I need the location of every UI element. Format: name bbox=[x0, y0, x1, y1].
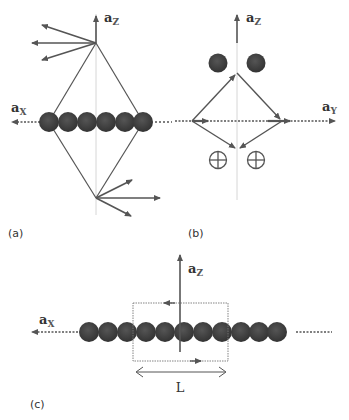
atom bbox=[249, 322, 269, 342]
atom bbox=[193, 322, 213, 342]
z-axis-label: aZ bbox=[104, 10, 119, 27]
y-axis-label: aY bbox=[322, 99, 337, 116]
diagram-canvas: aZ aX (a) aZ aY bbox=[0, 0, 349, 420]
z-axis-label: aZ bbox=[246, 10, 261, 27]
atom bbox=[267, 322, 287, 342]
scatter-arrow bbox=[42, 25, 96, 43]
panel-c: aX aZ L (c) bbox=[30, 255, 332, 411]
x-axis-label: aX bbox=[11, 100, 26, 117]
atom bbox=[136, 322, 156, 342]
ray-line bbox=[50, 124, 96, 198]
atom bbox=[77, 112, 97, 132]
ray-arrow bbox=[240, 121, 282, 148]
length-label: L bbox=[176, 380, 185, 395]
atom bbox=[155, 322, 175, 342]
panel-b: aZ aY (b) bbox=[175, 10, 337, 240]
z-axis-label: aZ bbox=[188, 261, 203, 278]
atom bbox=[96, 112, 116, 132]
ray-arrow bbox=[192, 75, 235, 121]
atom bbox=[39, 112, 59, 132]
x-axis-label: aX bbox=[39, 312, 54, 329]
panel-label-c: (c) bbox=[30, 398, 45, 411]
cross-into-page bbox=[248, 152, 265, 169]
panel-label-a: (a) bbox=[8, 227, 23, 240]
atom-chain bbox=[79, 322, 287, 342]
atom bbox=[231, 322, 251, 342]
length-dimension bbox=[136, 367, 226, 377]
ray-arrow bbox=[237, 73, 280, 119]
atom bbox=[133, 112, 153, 132]
panel-label-b: (b) bbox=[188, 227, 204, 240]
cross-into-page bbox=[210, 152, 227, 169]
ray-line bbox=[96, 43, 142, 120]
scatter-arrow bbox=[96, 198, 131, 216]
atom bbox=[79, 322, 99, 342]
atom bbox=[58, 112, 78, 132]
ray-arrow bbox=[192, 121, 235, 148]
atom bbox=[212, 322, 232, 342]
dot-out-of-page bbox=[209, 54, 228, 73]
atom bbox=[174, 322, 194, 342]
panel-a: aZ aX (a) bbox=[8, 10, 172, 240]
dot-out-of-page bbox=[247, 54, 266, 73]
atom bbox=[115, 112, 135, 132]
atom bbox=[98, 322, 118, 342]
atom bbox=[117, 322, 137, 342]
